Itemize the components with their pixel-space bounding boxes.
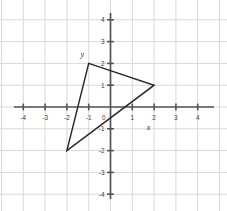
- y-axis-name-label: y: [79, 50, 84, 59]
- x-tick-label: 3: [174, 114, 178, 121]
- y-tick-label: 2: [101, 60, 105, 67]
- x-tick-label: -4: [20, 114, 26, 121]
- x-tick-label: -1: [86, 114, 92, 121]
- x-tick-label: 4: [196, 114, 200, 121]
- gridlines-group: [0, 0, 227, 211]
- x-tick-label: 1: [131, 114, 135, 121]
- y-tick-label: 1: [101, 82, 105, 89]
- x-tick-label: -2: [64, 114, 70, 121]
- y-tick-label: 3: [101, 38, 105, 45]
- graph-canvas: -4-3-2-112344321-1-2-3-40 xy: [0, 0, 227, 211]
- y-tick-label: -2: [99, 147, 105, 154]
- x-tick-label: -3: [42, 114, 48, 121]
- x-axis-name-label: x: [146, 123, 151, 132]
- coordinate-plane-figure: -4-3-2-112344321-1-2-3-40 xy: [0, 0, 227, 211]
- y-tick-label: -3: [99, 169, 105, 176]
- x-tick-label: 2: [152, 114, 156, 121]
- axes-group: [14, 13, 214, 199]
- origin-label: 0: [102, 114, 106, 121]
- y-tick-label: -4: [99, 191, 105, 198]
- y-tick-label: 4: [101, 16, 105, 23]
